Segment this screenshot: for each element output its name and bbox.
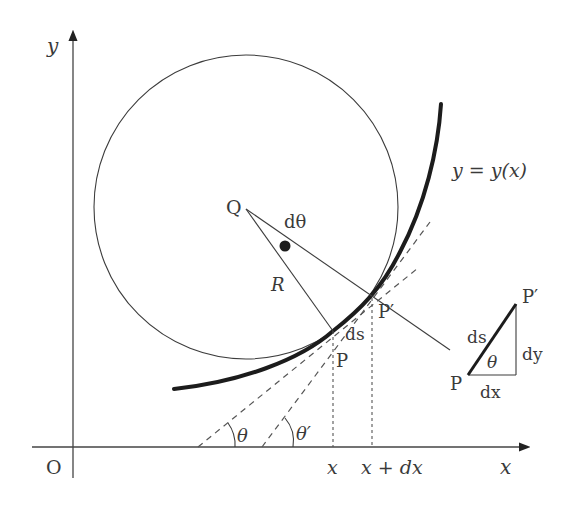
angle-label-dtheta: dθ	[284, 211, 306, 232]
origin-label: O	[46, 456, 62, 478]
tick-label-x: x	[327, 456, 338, 478]
curvature-diagram: y x O y = y(x) Q dθ R θ θ′ P P′ ds x x +…	[0, 0, 578, 505]
tangent-line-at-p	[198, 268, 418, 447]
center-dot	[280, 241, 291, 252]
angle-label-theta: θ	[237, 425, 248, 446]
triangle-label-dy: dy	[522, 344, 543, 364]
triangle-label-p-prime: P′	[522, 286, 538, 307]
point-label-p: P	[336, 350, 348, 371]
triangle-label-theta: θ	[487, 352, 497, 372]
radius-label-r: R	[270, 274, 285, 295]
center-label-q: Q	[226, 196, 242, 218]
curve-label: y = y(x)	[451, 159, 527, 181]
inset-triangle: P P′ ds dy dx θ	[450, 286, 543, 402]
angle-arc-theta	[228, 423, 235, 447]
angle-arc-theta-prime	[285, 418, 293, 447]
arc-label-ds: ds	[345, 324, 365, 344]
triangle-label-ds: ds	[467, 327, 487, 347]
triangle-label-p: P	[450, 373, 462, 394]
point-label-p-prime: P′	[378, 301, 394, 322]
x-axis-label: x	[500, 455, 511, 479]
triangle-label-dx: dx	[480, 382, 501, 402]
tick-label-x-plus-dx: x + dx	[361, 456, 423, 478]
y-axis-label: y	[46, 34, 59, 58]
angle-label-theta-prime: θ′	[296, 423, 311, 444]
